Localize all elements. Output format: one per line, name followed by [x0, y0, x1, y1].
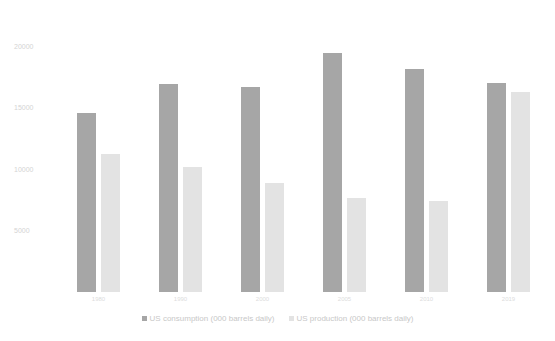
bar-production	[347, 198, 366, 292]
legend: US consumption (000 barrels daily) US pr…	[0, 314, 555, 323]
bar-consumption	[405, 69, 424, 292]
legend-label: US production (000 barrels daily)	[297, 314, 414, 323]
x-tick-label: 1990	[161, 296, 201, 302]
bar-consumption	[159, 84, 178, 292]
bar-consumption	[487, 83, 506, 292]
y-tick-label: 20000	[14, 43, 54, 50]
legend-item-consumption: US consumption (000 barrels daily)	[142, 314, 275, 323]
legend-label: US consumption (000 barrels daily)	[150, 314, 275, 323]
bar-chart: 5000100001500020000 19801990200020052010…	[0, 0, 555, 341]
x-tick-label: 2005	[325, 296, 365, 302]
legend-swatch-icon	[142, 316, 147, 321]
bar-production	[511, 92, 530, 292]
bar-production	[183, 167, 202, 292]
legend-item-production: US production (000 barrels daily)	[289, 314, 414, 323]
y-tick-label: 5000	[14, 227, 54, 234]
y-tick-label: 10000	[14, 166, 54, 173]
x-tick-label: 2000	[243, 296, 283, 302]
legend-swatch-icon	[289, 316, 294, 321]
bar-consumption	[77, 113, 96, 292]
y-tick-label: 15000	[14, 104, 54, 111]
bar-production	[265, 183, 284, 292]
bar-consumption	[241, 87, 260, 292]
x-tick-label: 2010	[407, 296, 447, 302]
bar-production	[101, 154, 120, 292]
bar-consumption	[323, 53, 342, 292]
x-tick-label: 2019	[489, 296, 529, 302]
x-tick-label: 1980	[79, 296, 119, 302]
bar-production	[429, 201, 448, 292]
